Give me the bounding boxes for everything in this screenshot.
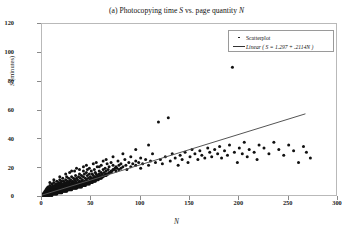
data-point (112, 164, 115, 167)
data-point (144, 158, 147, 161)
title-symbol-n: N (239, 6, 244, 15)
data-point (236, 161, 239, 164)
x-tick-mark (90, 196, 91, 200)
data-point (226, 154, 229, 157)
data-point (134, 159, 137, 162)
x-tick-mark (337, 196, 338, 200)
data-point (277, 148, 280, 151)
data-point (107, 168, 110, 171)
y-tick-label: 60 (0, 106, 14, 113)
data-point (78, 168, 81, 171)
data-point (181, 158, 184, 161)
data-point (85, 164, 88, 167)
y-tick-label: 120 (0, 19, 14, 26)
legend-dot-icon (232, 33, 246, 42)
data-point (147, 164, 150, 167)
data-point (121, 152, 124, 155)
data-point (68, 171, 71, 174)
data-point (52, 178, 55, 181)
y-tick-label: 20 (0, 164, 14, 171)
data-point (124, 164, 127, 167)
legend-label-linear-fit: Linear ( S = 1.297 + .2114N ) (246, 44, 313, 50)
data-point (131, 162, 134, 165)
data-point (167, 116, 170, 119)
data-point (241, 152, 244, 155)
y-tick-mark (37, 167, 41, 168)
x-tick-mark (288, 196, 289, 200)
data-point (246, 155, 249, 158)
data-point (123, 158, 126, 161)
data-point (106, 162, 109, 165)
data-point (198, 149, 201, 152)
data-point (256, 158, 259, 161)
data-point (82, 170, 85, 173)
data-point (174, 157, 177, 160)
x-tick-label: 100 (127, 199, 153, 206)
data-point (248, 148, 251, 151)
data-point (309, 157, 312, 160)
data-point (137, 161, 140, 164)
y-tick-label: 40 (0, 135, 14, 142)
data-point (61, 177, 64, 180)
data-point (305, 151, 308, 154)
data-point (104, 167, 107, 170)
regression-line (42, 114, 305, 195)
y-tick-mark (37, 23, 41, 24)
data-point (213, 148, 216, 151)
legend-item-linear-fit: Linear ( S = 1.297 + .2114N ) (232, 42, 330, 51)
data-point (147, 144, 150, 147)
legend-line-icon (232, 42, 246, 51)
y-tick-mark (37, 81, 41, 82)
x-tick-mark (238, 196, 239, 200)
y-tick-label: 0 (0, 192, 14, 199)
x-tick-mark (140, 196, 141, 200)
data-point (134, 148, 137, 151)
data-point (282, 154, 285, 157)
data-point (218, 145, 221, 148)
data-point (105, 158, 108, 161)
data-point (287, 144, 290, 147)
data-point (58, 175, 61, 178)
data-point (208, 151, 211, 154)
data-point (253, 151, 256, 154)
data-point (157, 121, 160, 124)
data-point (302, 145, 305, 148)
data-point (85, 171, 88, 174)
data-point (86, 168, 89, 171)
data-point (119, 162, 122, 165)
y-tick-mark (37, 138, 41, 139)
data-point (88, 172, 91, 175)
data-point (98, 165, 101, 168)
data-point (292, 149, 295, 152)
data-point (210, 155, 213, 158)
data-point (129, 155, 132, 158)
x-tick-label: 200 (225, 199, 251, 206)
legend-item-scatterplot: Scatterplot (232, 33, 330, 42)
x-tick-label: 300 (324, 199, 350, 206)
data-point (93, 168, 96, 171)
data-point (267, 152, 270, 155)
data-point (243, 141, 246, 144)
data-point (64, 172, 67, 175)
data-point (121, 165, 124, 168)
data-point (179, 154, 182, 157)
x-tick-label: 0 (28, 199, 54, 206)
data-point (75, 167, 78, 170)
data-point (223, 149, 226, 152)
data-point (169, 159, 172, 162)
x-tick-label: 50 (77, 199, 103, 206)
x-tick-mark (189, 196, 190, 200)
y-tick-label: 100 (0, 48, 14, 55)
y-tick-mark (37, 110, 41, 111)
data-point (238, 146, 241, 149)
data-point (92, 162, 95, 165)
data-point (139, 157, 142, 160)
data-point (206, 146, 209, 149)
data-point (297, 161, 300, 164)
x-tick-mark (41, 196, 42, 200)
data-point (228, 144, 231, 147)
data-point (258, 144, 261, 147)
data-point (116, 159, 119, 162)
data-point (200, 154, 203, 157)
data-point (112, 155, 115, 158)
